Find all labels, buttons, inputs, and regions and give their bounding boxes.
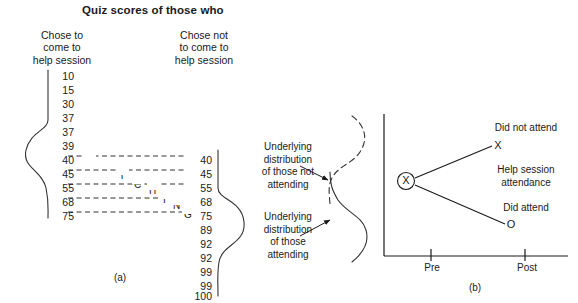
series-line-did-attend — [415, 185, 505, 224]
left-distribution-curve — [25, 70, 48, 218]
annotation-arrow-attending — [300, 220, 330, 236]
series-line-did-not-attend — [415, 146, 492, 178]
vector-layer — [0, 0, 578, 303]
annotation-arrow-not-attending — [300, 166, 328, 180]
right-distribution-curve — [218, 150, 244, 296]
figure-root: Quiz scores of those who Chose to come t… — [0, 0, 578, 303]
distribution-curve-attending — [330, 172, 367, 262]
distribution-curve-not-attending — [329, 116, 365, 204]
origin-marker-circle — [398, 173, 415, 190]
